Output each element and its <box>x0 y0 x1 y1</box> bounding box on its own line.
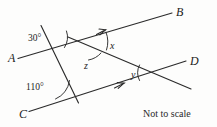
angle-arc-110 <box>56 81 70 100</box>
angle-arc-x <box>106 32 108 50</box>
point-label-A: A <box>8 52 15 64</box>
point-label-C: C <box>19 108 27 120</box>
point-label-D: D <box>190 55 199 67</box>
angle-label-x: x <box>110 41 114 51</box>
point-label-B: B <box>176 6 183 18</box>
angle-label-110: 110° <box>26 83 44 93</box>
angle-label-30: 30° <box>28 34 41 44</box>
geometry-figure: A B C D 30° 110° x z y Not to scale <box>0 0 217 127</box>
angle-label-z: z <box>84 61 88 71</box>
line-segment-CD <box>29 61 186 112</box>
angle-label-y: y <box>131 70 135 80</box>
angle-arc-z <box>89 53 102 60</box>
not-to-scale-caption: Not to scale <box>143 109 191 119</box>
line-segment-transversal <box>41 26 79 104</box>
